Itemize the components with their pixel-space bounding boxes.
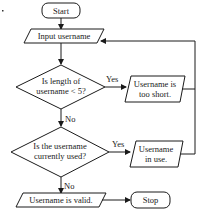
input-username-node: Input username bbox=[24, 29, 104, 43]
start-label: Start bbox=[53, 6, 70, 16]
feedback-line-inuse bbox=[181, 89, 195, 154]
stop-terminal: Stop bbox=[131, 192, 170, 208]
output-short-line2: too short. bbox=[139, 89, 171, 99]
decision2-line1: Is the username bbox=[33, 141, 87, 151]
output-valid-label: Username is valid. bbox=[29, 195, 93, 205]
stop-label: Stop bbox=[143, 195, 159, 205]
decision-in-use-node: Is the username currently used? bbox=[11, 127, 109, 177]
flowchart: Start Input username Is length of userna… bbox=[0, 0, 199, 218]
input-label: Input username bbox=[38, 31, 91, 41]
output-too-short-node: Username is too short. bbox=[125, 76, 185, 102]
decision2-yes-label: Yes bbox=[112, 139, 124, 149]
decision1-line1: Is length of bbox=[42, 76, 81, 86]
output-short-line1: Username is bbox=[134, 79, 176, 89]
output-valid-node: Username is valid. bbox=[16, 193, 106, 207]
decision1-yes-label: Yes bbox=[106, 74, 118, 84]
decision1-line2: username < 5? bbox=[36, 86, 86, 96]
decision-length-node: Is length of username < 5? bbox=[16, 65, 105, 109]
decision1-no-label: No bbox=[65, 114, 75, 124]
output-in-use-node: Username in use. bbox=[130, 141, 183, 167]
decision2-line2: currently used? bbox=[34, 151, 86, 161]
stray-mark bbox=[2, 10, 4, 12]
output-inuse-line2: in use. bbox=[145, 154, 167, 164]
decision2-no-label: No bbox=[64, 181, 74, 191]
output-inuse-line1: Username bbox=[139, 144, 174, 154]
start-terminal: Start bbox=[42, 3, 80, 18]
